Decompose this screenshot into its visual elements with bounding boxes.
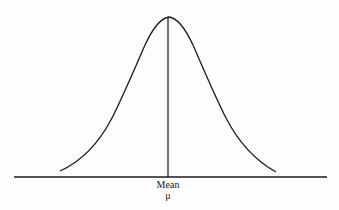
mean-label: Mean [138,180,198,190]
mu-symbol-label: μ [138,191,198,201]
normal-distribution-diagram: Mean μ [0,0,339,210]
